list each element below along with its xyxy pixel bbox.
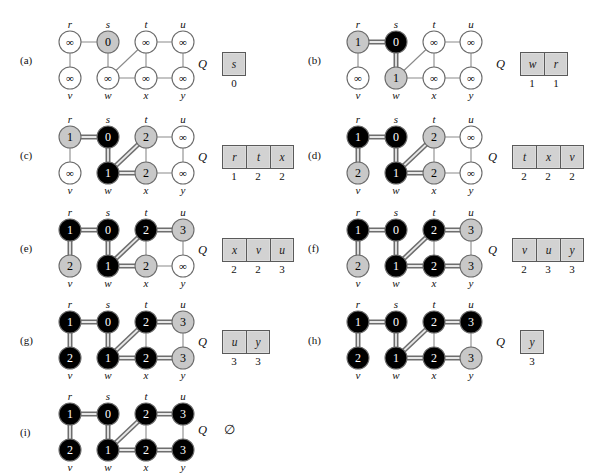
svg-text:1: 1 <box>355 315 361 329</box>
svg-text:1: 1 <box>105 443 111 457</box>
svg-text:∞: ∞ <box>354 72 362 84</box>
bfs-figure: (a)∞r0s∞t∞u∞v∞w∞x∞yQs0(b)1r0s∞t∞u∞v1w∞x∞… <box>0 0 605 476</box>
queue-distance: 2 <box>246 170 270 182</box>
node-u-panel-g: 3u <box>172 298 194 334</box>
node-v-panel-c: ∞v <box>59 162 81 196</box>
queue-distance: 2 <box>560 170 584 182</box>
node-s-panel-f: 0s <box>385 206 407 242</box>
node-y-panel-h: 3y <box>460 347 482 381</box>
node-s-panel-b: 0s <box>385 18 407 54</box>
svg-text:∞: ∞ <box>179 36 187 48</box>
svg-text:∞: ∞ <box>430 72 438 84</box>
svg-text:2: 2 <box>355 259 361 273</box>
svg-text:2: 2 <box>67 259 73 273</box>
node-y-panel-b: ∞y <box>460 67 482 101</box>
svg-text:∞: ∞ <box>66 72 74 84</box>
vertex-name-w: w <box>104 461 112 473</box>
panel-label-h: (h) <box>308 334 321 346</box>
svg-text:3: 3 <box>180 407 186 421</box>
node-s-panel-e: 0s <box>97 206 119 242</box>
node-r-panel-f: 1r <box>347 206 369 242</box>
vertex-name-v: v <box>356 369 361 381</box>
node-w-panel-e: 1w <box>97 255 119 289</box>
vertex-name-t: t <box>144 18 148 30</box>
queue-cell: v <box>246 238 270 262</box>
node-y-panel-f: 3y <box>460 255 482 289</box>
vertex-name-s: s <box>394 18 398 30</box>
queue-distance: 2 <box>512 263 536 275</box>
svg-text:1: 1 <box>105 351 111 365</box>
vertex-name-v: v <box>356 89 361 101</box>
queue-label: Q <box>488 150 497 165</box>
vertex-name-u: u <box>180 18 186 30</box>
node-u-panel-i: 3u <box>172 390 194 426</box>
queue-label: Q <box>198 335 207 350</box>
queue-distance: 3 <box>270 263 294 275</box>
svg-text:2: 2 <box>355 351 361 365</box>
queue-cell: u <box>536 238 560 262</box>
node-t-panel-a: ∞t <box>135 18 157 54</box>
queue-cell: u <box>270 238 294 262</box>
vertex-name-r: r <box>356 206 361 218</box>
node-w-panel-b: 1w <box>385 67 407 101</box>
svg-text:1: 1 <box>67 315 73 329</box>
queue-distance: 0 <box>222 77 246 89</box>
svg-text:3: 3 <box>468 315 474 329</box>
vertex-name-y: y <box>468 184 474 196</box>
queue-cell: u <box>222 330 246 354</box>
queue-distance: 2 <box>246 263 270 275</box>
node-u-panel-d: ∞u <box>460 113 482 149</box>
svg-text:1: 1 <box>355 35 361 49</box>
vertex-name-t: t <box>432 113 436 125</box>
svg-text:3: 3 <box>180 443 186 457</box>
svg-text:∞: ∞ <box>467 131 475 143</box>
node-s-panel-h: 0s <box>385 298 407 334</box>
svg-text:∞: ∞ <box>179 260 187 272</box>
vertex-name-r: r <box>68 113 73 125</box>
node-v-panel-b: ∞v <box>347 67 369 101</box>
node-w-panel-a: ∞w <box>97 67 119 101</box>
vertex-name-u: u <box>180 390 186 402</box>
queue-distance: 1 <box>544 77 568 89</box>
panel-label-d: (d) <box>308 149 321 161</box>
node-t-panel-d: 2t <box>423 113 445 149</box>
svg-text:0: 0 <box>393 35 399 49</box>
graph-panel-d: 1r0s2t∞u2v1w2x∞y <box>340 123 510 208</box>
queue-cell: x <box>222 238 246 262</box>
node-w-panel-c: 1w <box>97 162 119 196</box>
svg-text:∞: ∞ <box>467 72 475 84</box>
queue-cell: x <box>536 145 560 169</box>
node-u-panel-a: ∞u <box>172 18 194 54</box>
node-t-panel-e: 2t <box>135 206 157 242</box>
queue-label: Q <box>496 335 505 350</box>
svg-text:3: 3 <box>180 223 186 237</box>
node-s-panel-c: 0s <box>97 113 119 149</box>
vertex-name-v: v <box>68 369 73 381</box>
svg-text:2: 2 <box>431 130 437 144</box>
vertex-name-v: v <box>356 184 361 196</box>
vertex-name-v: v <box>68 277 73 289</box>
vertex-name-y: y <box>468 277 474 289</box>
queue-distances: 11 <box>520 77 568 89</box>
queue-label: Q <box>198 243 207 258</box>
vertex-name-w: w <box>104 184 112 196</box>
vertex-name-u: u <box>180 206 186 218</box>
queue-cells: xvu <box>222 238 294 262</box>
queue-distances: 0 <box>222 77 246 89</box>
vertex-name-w: w <box>392 89 400 101</box>
svg-text:∞: ∞ <box>142 72 150 84</box>
queue-distance: 3 <box>222 355 246 367</box>
vertex-name-s: s <box>394 206 398 218</box>
vertex-name-w: w <box>104 277 112 289</box>
node-v-panel-f: 2v <box>347 255 369 289</box>
queue-distances: 33 <box>222 355 270 367</box>
node-u-panel-f: 3u <box>460 206 482 242</box>
vertex-name-u: u <box>468 113 474 125</box>
vertex-name-u: u <box>468 18 474 30</box>
vertex-name-x: x <box>143 369 149 381</box>
node-y-panel-g: 3y <box>172 347 194 381</box>
vertex-name-v: v <box>68 89 73 101</box>
node-y-panel-e: ∞y <box>172 255 194 289</box>
queue-cell: w <box>520 52 544 76</box>
svg-text:0: 0 <box>105 315 111 329</box>
